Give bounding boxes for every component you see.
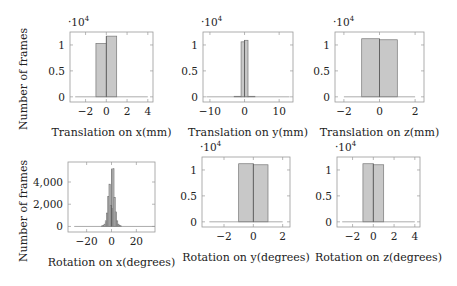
histogram-bar <box>363 164 373 222</box>
y-multiplier: ·104 <box>335 140 356 153</box>
x-tick-label: 2 <box>391 230 398 242</box>
x-tick-label: −2 <box>345 230 360 242</box>
y-tick-label: 0 <box>325 216 332 228</box>
y-tick-label: 0.5 <box>315 190 332 202</box>
y-tick-label: 1 <box>325 164 332 176</box>
x-axis-label: Rotation on z(degrees) <box>315 251 442 264</box>
x-tick-label: 4 <box>411 230 418 242</box>
histogram-bar <box>373 165 383 222</box>
x-tick-label: 0 <box>370 230 377 242</box>
